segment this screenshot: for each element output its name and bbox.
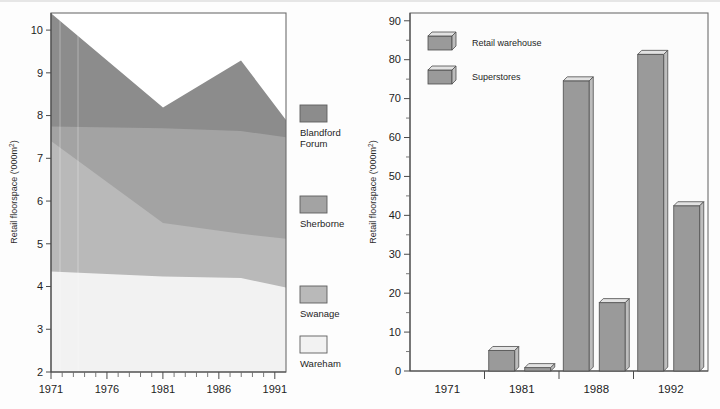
y-tick-label-right: 70 [389,92,401,104]
y-axis-right: 0102030405060708090 [389,13,410,377]
bar-top-face [563,77,593,81]
legend-left: BlandfordForumSherborneSwanageWareham [300,105,344,369]
legend-label-superstores: Superstores [472,72,521,82]
figure-page: 2345678910 19711976198119861991 Retail f… [0,0,720,409]
y-tick-label-left: 4 [37,280,43,292]
bar-top-face [525,364,555,368]
x-tick-label-left: 1981 [151,383,175,395]
legend-swatch-sherborne[interactable] [300,196,327,213]
y-tick-label-right: 90 [389,15,401,27]
y-axis-title-left: Retail floorspace ('000m2) [8,140,19,243]
bar-side-face [515,346,519,371]
bar-top-face [674,202,704,206]
area-band-wareham [51,272,286,373]
bar-top-face [599,299,629,303]
category-label-1988: 1988 [583,383,609,395]
y-tick-label-right: 60 [389,131,401,143]
y-tick-label-left: 6 [37,195,43,207]
y-tick-label-right: 40 [389,209,401,221]
legend-swatch-wareham[interactable] [300,336,327,353]
bar-retail-warehouse-1988[interactable] [563,81,589,371]
y-tick-label-right: 80 [389,53,401,65]
y-tick-label-left: 7 [37,152,43,164]
bar-chart-svg: 0102030405060708090 1971198119881992 Ret… [360,0,720,409]
category-label-1971: 1971 [434,383,460,395]
x-tick-label-left: 1971 [39,383,63,395]
bar-retail-warehouse-1981[interactable] [489,350,515,371]
bar-side-face [625,299,629,371]
x-axis-right [410,371,708,379]
y-tick-label-right: 30 [389,248,401,260]
y-tick-label-right: 50 [389,170,401,182]
y-tick-label-right: 0 [395,365,401,377]
category-labels: 1971198119881992 [434,383,683,395]
y-tick-label-left: 10 [31,24,43,36]
area-chart-panel: 2345678910 19711976198119861991 Retail f… [0,0,360,409]
bar-side-face [700,202,704,371]
legend-label-wareham: Wareham [300,358,341,369]
bar-chart-panel: 0102030405060708090 1971198119881992 Ret… [360,0,720,409]
legend-label-sherborne: Sherborne [300,218,344,229]
y-tick-label-left: 9 [37,67,43,79]
category-label-1992: 1992 [658,383,684,395]
y-tick-label-left: 2 [37,366,43,378]
y-tick-label-left: 3 [37,323,43,335]
bar-retail-warehouse-1992[interactable] [638,54,664,371]
bar-superstores-1988[interactable] [599,303,625,371]
legend-swatch-top [428,66,456,70]
legend-label-retail-warehouse: Retail warehouse [472,38,542,48]
y-tick-label-right: 20 [389,287,401,299]
area-chart-svg: 2345678910 19711976198119861991 Retail f… [0,0,360,409]
y-tick-label-left: 8 [37,109,43,121]
y-axis-left: 2345678910 [31,13,51,378]
y-axis-title-right: Retail floorspace ('000m2) [367,140,378,243]
y-tick-label-left: 5 [37,238,43,250]
bar-superstores-1981[interactable] [525,368,551,371]
bar-side-face [664,50,668,371]
bar-side-face [589,77,593,371]
legend-label-blandford-forum: Blandford [300,127,341,138]
y-tick-label-right: 10 [389,326,401,338]
legend-swatch-top [428,32,456,36]
legend-label-swanage: Swanage [300,308,340,319]
bar-top-face [638,50,668,54]
category-label-1981: 1981 [509,383,535,395]
bar-top-face [489,346,519,350]
x-tick-label-left: 1991 [263,383,287,395]
legend-swatch-superstores[interactable] [428,70,452,84]
bar-superstores-1992[interactable] [674,206,700,371]
legend-swatch-swanage[interactable] [300,286,327,303]
legend-label-line2: Forum [300,138,328,149]
legend-swatch-blandford-forum[interactable] [300,105,327,122]
legend-swatch-retail-warehouse[interactable] [428,36,452,50]
x-axis-left: 19711976198119861991 [39,372,287,395]
x-tick-label-left: 1986 [207,383,231,395]
x-tick-label-left: 1976 [95,383,119,395]
